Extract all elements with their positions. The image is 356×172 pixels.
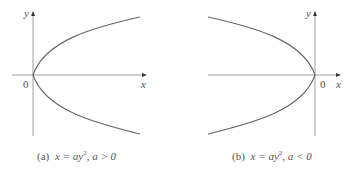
caption-a: (a) x = ay2, a > 0 bbox=[37, 149, 117, 163]
caption-b: (b) x = ay2, a < 0 bbox=[232, 149, 312, 163]
panel-a: y x 0 (a) x = ay2, a > 0 bbox=[12, 7, 146, 163]
parabola-curve bbox=[33, 17, 140, 134]
y-axis-label: y bbox=[305, 7, 311, 19]
x-axis-label: x bbox=[335, 78, 341, 90]
x-axis-label: x bbox=[140, 78, 146, 90]
origin-label: 0 bbox=[23, 78, 29, 90]
origin-label: 0 bbox=[320, 78, 326, 90]
y-axis-label: y bbox=[23, 7, 29, 19]
parabola-curve bbox=[208, 17, 315, 134]
figure: y x 0 (a) x = ay2, a > 0 y x 0 (b) x = a… bbox=[0, 0, 356, 172]
panel-b: y x 0 (b) x = ay2, a < 0 bbox=[208, 7, 341, 163]
